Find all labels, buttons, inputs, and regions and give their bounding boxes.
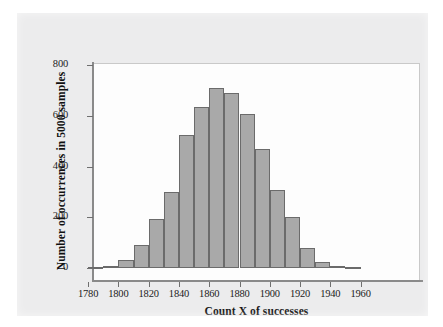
x-axis-tick [330,282,331,287]
y-axis-title: Number of occurrences in 5000 samples [55,61,67,281]
histogram-bar [255,149,270,268]
y-axis-tick [87,268,93,269]
x-axis-tick [179,282,180,287]
x-axis-tick [270,282,271,287]
figure-panel: 0200400600800 17801800182018401860188019… [17,13,428,316]
histogram-bar [179,135,194,268]
histogram-bar [345,267,360,269]
x-axis-title: Count X of successes [93,305,420,317]
y-axis-tick [87,65,93,66]
histogram-bar [134,245,149,268]
x-axis-tick-label: 1960 [341,288,381,299]
x-axis-tick [88,282,89,287]
x-axis-tick [240,282,241,287]
y-axis-tick [87,116,93,117]
x-axis-tick [149,282,150,287]
x-axis-tick [361,282,362,287]
histogram-bar [118,260,133,268]
histogram-bar [103,266,118,268]
x-axis-line [92,280,423,282]
histogram-bar [285,217,300,268]
y-axis-line [92,62,94,282]
x-axis-tick [118,282,119,287]
histogram-bar [149,219,164,268]
histogram-bar [240,114,255,268]
x-axis-tick [209,282,210,287]
y-axis-tick [87,167,93,168]
histogram-bar [300,248,315,268]
y-axis-tick [87,217,93,218]
histogram-bar [209,88,224,268]
histogram-bar [315,262,330,268]
histogram-bar [270,190,285,268]
page-root: 0200400600800 17801800182018401860188019… [0,0,443,327]
histogram-bar [330,266,345,268]
histogram-bar [164,192,179,268]
histogram-bar [224,93,239,268]
x-axis-tick [300,282,301,287]
histogram-bar [194,107,209,268]
